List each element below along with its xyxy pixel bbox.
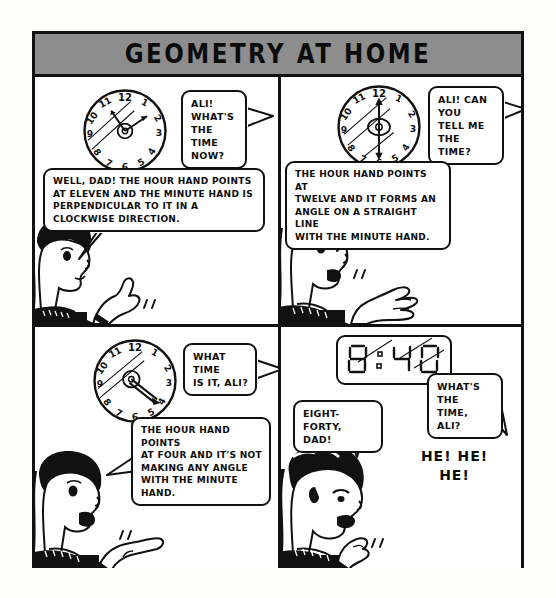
svg-text:12: 12 bbox=[128, 342, 142, 353]
panel-4: 8:40 WHAT'S THE TIME, ALI? EIGHT-FORTY, … bbox=[278, 327, 521, 568]
speech-bubble-dad-panel-4: WHAT'S THE TIME, ALI? bbox=[427, 373, 503, 439]
speech-bubble-ali-panel-2: THE HOUR HAND POINTS AT TWELVE AND IT FO… bbox=[285, 161, 451, 250]
comic-page: GEOMETRY AT HOME 12 1 2 3 4 5 6 7 8 9 bbox=[0, 0, 556, 598]
panel-row-top: 12 1 2 3 4 5 6 7 8 9 10 11 bbox=[35, 77, 521, 324]
speech-bubble-dad-panel-2: ALI! CAN YOU TELL ME THE TIME? bbox=[428, 86, 504, 165]
speech-bubble-dad-panel-3: WHAT TIME IS IT, ALI? bbox=[183, 343, 257, 396]
speech-tail-ali-panel-1 bbox=[73, 229, 109, 263]
svg-text:12: 12 bbox=[372, 88, 386, 99]
speech-bubble-ali-panel-4: EIGHT-FORTY, DAD! bbox=[293, 400, 383, 453]
speech-bubble-ali-panel-1: WELL, DAD! THE HOUR HAND POINTS AT ELEVE… bbox=[43, 168, 265, 232]
analog-clock-panel-2: 12 1 2 3 4 5 6 7 8 9 10 11 bbox=[333, 81, 425, 173]
speech-bubble-dad-panel-1: ALI! WHAT'S THE TIME NOW? bbox=[181, 90, 247, 169]
svg-text:3: 3 bbox=[410, 123, 416, 134]
panel-1: 12 1 2 3 4 5 6 7 8 9 10 11 bbox=[35, 77, 278, 324]
svg-text:3: 3 bbox=[166, 377, 172, 388]
panel-3: 12 1 2 3 4 5 6 7 8 9 10 11 bbox=[35, 327, 278, 568]
svg-text:3: 3 bbox=[156, 127, 162, 138]
analog-clock-panel-1: 12 1 2 3 4 5 6 7 8 9 10 11 bbox=[79, 85, 171, 177]
panel-2: 12 1 2 3 4 5 6 7 8 9 10 11 bbox=[278, 77, 521, 324]
comic-frame: GEOMETRY AT HOME 12 1 2 3 4 5 6 7 8 9 bbox=[32, 31, 524, 568]
analog-clock-panel-3: 12 1 2 3 4 5 6 7 8 9 10 11 bbox=[89, 335, 181, 427]
panel-row-bottom: 12 1 2 3 4 5 6 7 8 9 10 11 bbox=[35, 324, 521, 568]
speech-tail-dad-panel-1 bbox=[243, 105, 277, 131]
comic-title-banner: GEOMETRY AT HOME bbox=[35, 34, 521, 77]
laughter-text-panel-4: HE! HE! HE! bbox=[402, 447, 507, 485]
svg-text:12: 12 bbox=[118, 92, 132, 103]
page-title: GEOMETRY AT HOME bbox=[125, 39, 432, 68]
speech-bubble-ali-panel-3: THE HOUR HAND POINTS AT FOUR AND IT'S NO… bbox=[131, 417, 271, 506]
